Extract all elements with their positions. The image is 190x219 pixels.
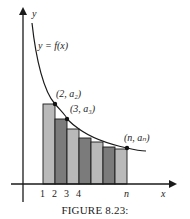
point-label-n: (n, aₙ) <box>124 132 150 144</box>
tick-label-1: 1 <box>40 188 45 199</box>
point-n <box>125 146 129 150</box>
figure-caption: FIGURE 8.23: <box>0 204 190 216</box>
rectangle-3 <box>67 129 79 184</box>
curve-label: y = f(x) <box>37 40 69 52</box>
rectangle-2 <box>55 119 67 184</box>
tick-label-3: 3 <box>64 188 69 199</box>
rectangle-4 <box>79 138 91 184</box>
point-2 <box>53 102 57 106</box>
rectangle-1 <box>43 104 55 184</box>
x-axis-label: x <box>160 188 166 199</box>
tick-label-2: 2 <box>52 188 57 199</box>
point-label-2: (2, a₂) <box>56 88 82 100</box>
x-axis-arrow-icon <box>169 180 177 188</box>
rectangle-5 <box>91 142 103 184</box>
tick-label-4: 4 <box>76 188 81 199</box>
rectangle-7 <box>115 149 127 184</box>
tick-label-n: n <box>124 188 129 199</box>
point-label-3: (3, a₃) <box>70 103 96 115</box>
y-axis-arrow-icon <box>19 7 27 15</box>
rectangles <box>43 104 127 184</box>
riemann-sum-figure: y y = f(x) (2, a₂) (3, a₃) (n, aₙ) x 1 2… <box>0 0 190 219</box>
y-axis-label: y <box>31 8 37 19</box>
point-3 <box>65 117 69 121</box>
rectangle-6 <box>103 147 115 184</box>
